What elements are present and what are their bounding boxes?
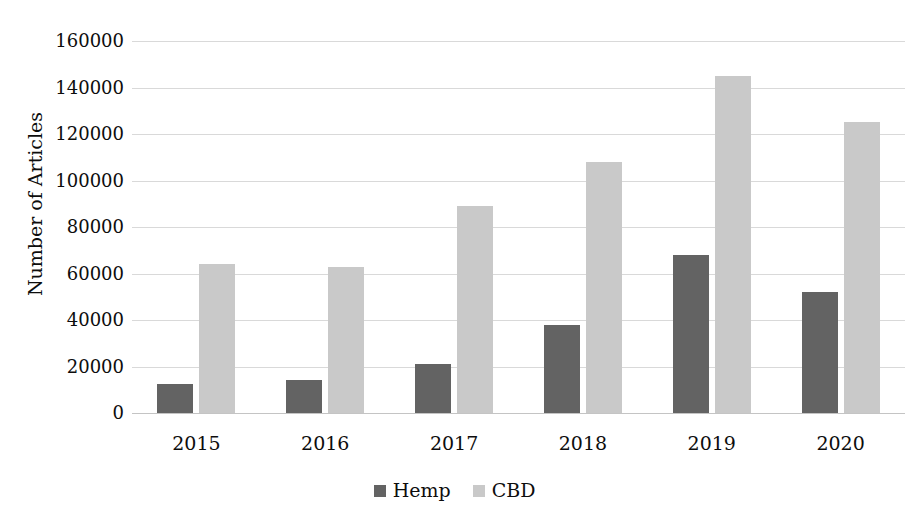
bar-hemp-2019[interactable] [673, 255, 709, 413]
bar-cbd-2015[interactable] [199, 264, 235, 413]
y-axis-tick-label: 20000 [4, 358, 124, 376]
y-axis-tick-label: 60000 [4, 265, 124, 283]
x-axis-tick-label-2020: 2020 [776, 432, 905, 454]
legend-label-hemp: Hemp [393, 481, 451, 500]
chart-legend: HempCBD [0, 481, 909, 500]
gridline [132, 320, 905, 321]
bar-hemp-2015[interactable] [157, 384, 193, 413]
y-axis-tick-labels: 1600001400001200001000008000060000400002… [0, 41, 124, 413]
y-axis-tick-label: 120000 [4, 125, 124, 143]
plot-area [132, 41, 905, 413]
y-axis-tick-label: 100000 [4, 172, 124, 190]
bar-cbd-2017[interactable] [457, 206, 493, 413]
y-axis-tick-label: 40000 [4, 311, 124, 329]
bar-group [415, 41, 493, 413]
bar-hemp-2020[interactable] [802, 292, 838, 413]
y-axis-tick-label: 80000 [4, 218, 124, 236]
bar-group [673, 41, 751, 413]
bar-cbd-2019[interactable] [715, 76, 751, 413]
x-axis-tick-label-2016: 2016 [261, 432, 390, 454]
gridline [132, 88, 905, 89]
bar-group [157, 41, 235, 413]
bar-hemp-2018[interactable] [544, 325, 580, 413]
gridline [132, 367, 905, 368]
x-axis-tick-label-2017: 2017 [390, 432, 519, 454]
bar-group [544, 41, 622, 413]
bar-group [802, 41, 880, 413]
bar-hemp-2016[interactable] [286, 380, 322, 413]
legend-item-cbd[interactable]: CBD [473, 481, 536, 500]
gridline [132, 41, 905, 42]
legend-item-hemp[interactable]: Hemp [374, 481, 451, 500]
gridline [132, 413, 905, 414]
y-axis-tick-label: 160000 [4, 32, 124, 50]
x-axis-tick-label-2015: 2015 [132, 432, 261, 454]
bar-cbd-2016[interactable] [328, 267, 364, 413]
bar-cbd-2018[interactable] [586, 162, 622, 413]
gridline [132, 274, 905, 275]
bar-hemp-2017[interactable] [415, 364, 451, 413]
gridline [132, 227, 905, 228]
gridline [132, 134, 905, 135]
bar-group [286, 41, 364, 413]
x-axis-tick-label-2018: 2018 [519, 432, 648, 454]
legend-label-cbd: CBD [492, 481, 536, 500]
y-axis-tick-label: 140000 [4, 79, 124, 97]
y-axis-tick-label: 0 [4, 404, 124, 422]
cbd-swatch-icon [473, 485, 485, 497]
hemp-swatch-icon [374, 485, 386, 497]
x-axis-tick-label-2019: 2019 [647, 432, 776, 454]
gridline [132, 181, 905, 182]
bar-chart-figure: Number of Articles 160000140000120000100… [0, 0, 909, 519]
bar-cbd-2020[interactable] [844, 122, 880, 413]
x-axis-tick-labels: 201520162017201820192020 [132, 432, 905, 462]
chart-title [0, 0, 909, 3]
